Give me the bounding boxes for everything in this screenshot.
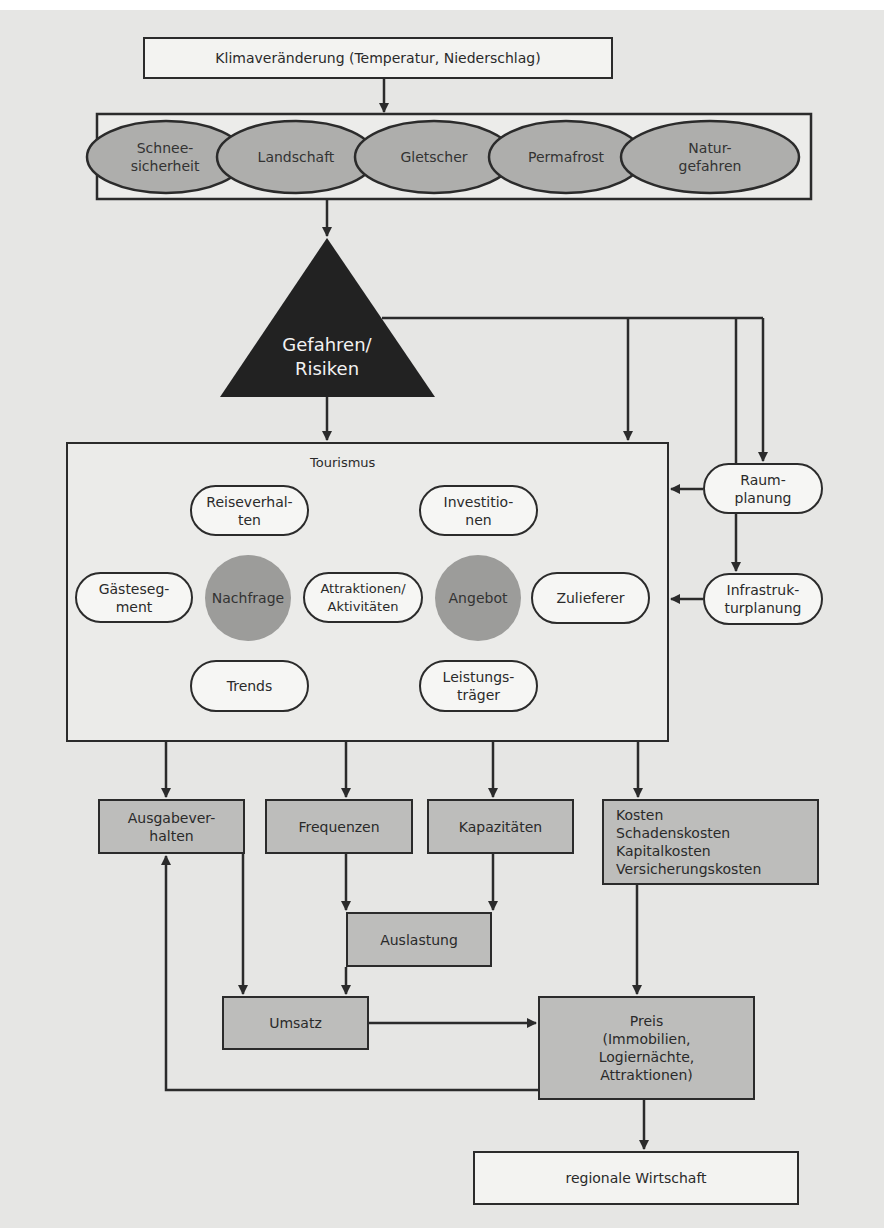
node-gaestesegment: Gästeseg- ment [75, 572, 193, 623]
node-reiseverhalten-label: Reiseverhal- ten [206, 493, 292, 529]
box-preis: Preis (Immobilien, Logiernächte, Attrakt… [538, 996, 755, 1100]
node-infrastrukturplanung: Infrastruk- turplanung [703, 573, 823, 625]
node-trends: Trends [190, 660, 309, 712]
box-auslastung: Auslastung [346, 912, 492, 967]
node-trends-label: Trends [227, 677, 273, 695]
node-leistungstraeger: Leistungs- träger [419, 660, 538, 712]
node-gaestesegment-label: Gästeseg- ment [99, 580, 170, 616]
box-preis-label: Preis (Immobilien, Logiernächte, Attrakt… [599, 1012, 695, 1084]
box-ausgabeverhalten-label: Ausgabever- halten [128, 809, 216, 845]
box-umsatz-label: Umsatz [269, 1014, 322, 1032]
box-regionale-wirtschaft: regionale Wirtschaft [473, 1151, 799, 1205]
node-reiseverhalten: Reiseverhal- ten [190, 485, 309, 536]
node-zulieferer-label: Zulieferer [556, 589, 624, 607]
box-ausgabeverhalten: Ausgabever- halten [98, 799, 245, 854]
box-regionale-wirtschaft-label: regionale Wirtschaft [565, 1169, 706, 1187]
impact-ellipse-landschaft [217, 121, 375, 193]
diagram-canvas: Klimaveränderung (Temperatur, Niederschl… [0, 0, 884, 1232]
box-kosten: Kosten Schadenskosten Kapitalkosten Vers… [602, 799, 819, 885]
impact-ellipse-naturgefahren [621, 121, 799, 193]
node-investitionen: Investitio- nen [419, 485, 538, 536]
demand-label: Nachfrage [212, 589, 284, 607]
demand-circle: Nachfrage [205, 555, 291, 641]
hazard-label: Gefahren/ Risiken [250, 333, 404, 381]
box-kapazitaeten-label: Kapazitäten [459, 818, 542, 836]
supply-label: Angebot [449, 589, 508, 607]
node-raumplanung: Raum- planung [703, 463, 823, 514]
node-zulieferer: Zulieferer [531, 572, 650, 624]
node-raumplanung-label: Raum- planung [735, 471, 792, 507]
box-auslastung-label: Auslastung [380, 931, 458, 949]
climate-change-box: Klimaveränderung (Temperatur, Niederschl… [143, 37, 613, 79]
box-umsatz: Umsatz [222, 996, 369, 1050]
box-frequenzen-label: Frequenzen [298, 818, 379, 836]
node-attraktionen: Attraktionen/ Aktivitäten [303, 572, 423, 623]
supply-circle: Angebot [435, 555, 521, 641]
node-infrastrukturplanung-label: Infrastruk- turplanung [725, 581, 802, 617]
climate-change-label: Klimaveränderung (Temperatur, Niederschl… [215, 49, 540, 67]
box-kapazitaeten: Kapazitäten [427, 799, 574, 854]
node-investitionen-label: Investitio- nen [444, 493, 514, 529]
box-frequenzen: Frequenzen [265, 799, 413, 854]
box-kosten-label: Kosten Schadenskosten Kapitalkosten Vers… [616, 806, 761, 878]
node-leistungstraeger-label: Leistungs- träger [443, 668, 515, 704]
tourism-title: Tourismus [310, 455, 375, 470]
node-attraktionen-label: Attraktionen/ Aktivitäten [320, 580, 405, 616]
